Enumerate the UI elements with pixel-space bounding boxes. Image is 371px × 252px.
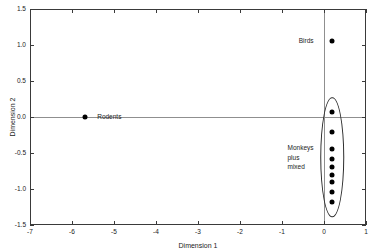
x-tick-label: 0 [322,229,326,236]
x-tick-label: -3 [195,229,201,236]
x-tick-top [72,9,73,13]
x-tick-label: -5 [111,229,117,236]
x-tick-top [324,9,325,13]
reference-line-horizontal [31,117,365,118]
cluster-label-line-1: Monkeys [287,143,313,152]
cluster-label-line-2: plus [287,153,313,162]
x-tick [324,221,325,225]
y-tick-right [362,153,366,154]
x-tick-label: -6 [69,229,75,236]
y-axis-title: Dimension 2 [9,98,16,137]
x-axis-title: Dimension 1 [179,242,218,249]
y-tick-right [362,189,366,190]
y-tick [30,189,34,190]
scatter-plot: -7-6-5-4-3-2-101 1.51.00.50.0-0.5-1.0-1.… [0,0,371,252]
cluster-label-line-3: mixed [287,162,313,171]
cluster-label-monkeys: Monkeys plus mixed [287,143,313,171]
y-tick-label: -0.5 [6,150,26,157]
point-label-birds: Birds [299,37,314,44]
y-tick-label: -1.5 [6,222,26,229]
x-tick [240,221,241,225]
y-tick-right [362,225,366,226]
y-tick [30,9,34,10]
y-tick-label: 1.0 [6,42,26,49]
y-tick-label: -1.0 [6,186,26,193]
x-tick-top [198,9,199,13]
x-tick-label: -1 [279,229,285,236]
x-tick-top [366,9,367,13]
y-tick-label: 1.5 [6,6,26,13]
data-point [330,38,335,43]
x-tick-top [240,9,241,13]
y-tick [30,153,34,154]
point-label-rodents: Rodents [97,114,121,121]
x-tick-label: 1 [364,229,368,236]
data-point [82,115,87,120]
y-tick-right [362,117,366,118]
y-tick-label: 0.5 [6,78,26,85]
x-tick-label: -4 [153,229,159,236]
x-tick [114,221,115,225]
x-tick [198,221,199,225]
y-tick [30,81,34,82]
y-tick [30,225,34,226]
x-tick-label: -7 [27,229,33,236]
x-tick [366,221,367,225]
y-tick [30,45,34,46]
y-tick-right [362,45,366,46]
x-tick-top [114,9,115,13]
x-tick [282,221,283,225]
x-tick [72,221,73,225]
y-tick [30,117,34,118]
y-tick-right [362,81,366,82]
x-tick-label: -2 [237,229,243,236]
y-tick-right [362,9,366,10]
x-tick-top [156,9,157,13]
cluster-ellipse-monkeys [321,98,345,218]
x-tick-top [282,9,283,13]
x-tick [156,221,157,225]
